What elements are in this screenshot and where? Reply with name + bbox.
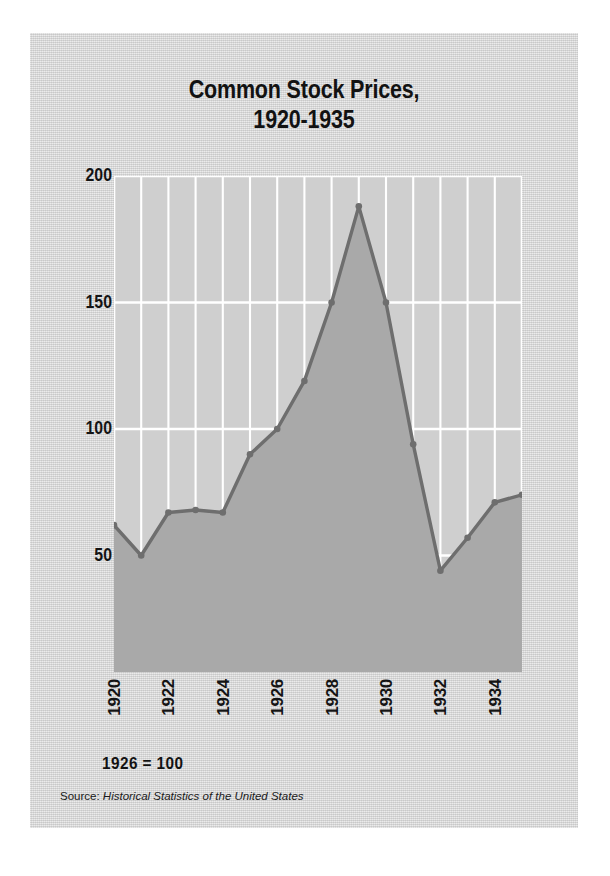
data-point [383, 299, 390, 306]
plot-area [114, 176, 522, 672]
y-axis: 20015010050 [52, 33, 112, 828]
data-point [192, 507, 199, 514]
x-tick-label: 1924 [214, 679, 234, 716]
source-title: Historical Statistics of the United Stat… [103, 790, 304, 802]
data-point [410, 441, 417, 448]
y-tick-label: 150 [66, 292, 112, 313]
chart-svg [114, 176, 522, 672]
base-note: 1926 = 100 [102, 754, 184, 774]
x-tick-label: 1926 [268, 679, 288, 716]
y-tick-label: 50 [66, 545, 112, 566]
data-point [247, 451, 254, 458]
y-tick-label: 100 [66, 418, 112, 439]
x-tick-label: 1930 [377, 679, 397, 716]
source-line: Source: Historical Statistics of the Uni… [60, 790, 304, 802]
data-point [220, 509, 227, 516]
chart-title: Common Stock Prices, 1920-1935 [68, 75, 539, 134]
data-point [165, 509, 172, 516]
x-tick-label: 1920 [105, 679, 125, 716]
data-point [274, 426, 281, 433]
source-label: Source: [60, 790, 100, 802]
x-tick-label: 1922 [159, 679, 179, 716]
x-tick-label: 1934 [486, 679, 506, 716]
y-tick-label: 200 [66, 165, 112, 186]
x-tick-label: 1932 [431, 679, 451, 716]
data-point [301, 378, 308, 385]
data-point [437, 567, 444, 574]
data-point [464, 534, 471, 541]
x-tick-label: 1928 [323, 679, 343, 716]
data-point [492, 499, 499, 506]
x-axis: 19201922192419261928193019321934 [114, 679, 522, 749]
data-point [356, 203, 363, 210]
figure-card: Common Stock Prices, 1920-1935 200150100… [30, 33, 578, 828]
data-point [328, 299, 335, 306]
data-point [138, 552, 145, 559]
